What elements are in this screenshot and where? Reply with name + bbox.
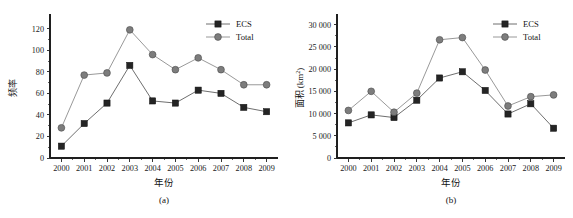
x-tick-label: 2007 [499, 164, 515, 173]
x-tick-label: 2008 [522, 164, 538, 173]
y-tick-label: 10 000 [308, 110, 331, 119]
legend-label-ecs: ECS [236, 19, 252, 29]
y-tick-label: 40 [36, 111, 44, 120]
legend-marker-total [215, 34, 222, 41]
data-point-ecs [459, 69, 465, 75]
x-tick-label: 2007 [213, 164, 229, 173]
panel-caption: (b) [445, 195, 456, 205]
data-point-total [263, 81, 270, 88]
data-point-ecs [195, 87, 201, 93]
y-tick-label: 80 [36, 68, 44, 77]
data-point-ecs [104, 100, 110, 106]
data-point-total [436, 36, 443, 43]
x-tick-label: 2006 [477, 164, 493, 173]
x-tick-label: 2009 [258, 164, 274, 173]
y-tick-label: 100 [32, 46, 44, 55]
data-point-total [104, 70, 111, 77]
x-tick-label: 2008 [236, 164, 252, 173]
x-tick-label: 2005 [167, 164, 183, 173]
data-point-ecs [345, 120, 351, 126]
data-point-ecs [264, 109, 270, 115]
data-point-total [218, 66, 225, 73]
chart-panel-b: 05 00010 00015 00020 00025 00030 0002000… [287, 0, 573, 218]
x-tick-label: 2003 [408, 164, 424, 173]
x-tick-label: 2004 [144, 164, 160, 173]
x-tick-label: 2001 [363, 164, 379, 173]
x-tick-label: 2009 [545, 164, 561, 173]
data-point-total [504, 103, 511, 110]
figure-root: 0204060801001202000200120022003200420052… [0, 0, 573, 218]
data-point-total [149, 51, 156, 58]
data-point-ecs [58, 143, 64, 149]
y-tick-label: 25 000 [308, 43, 331, 52]
y-tick-label: 20 000 [308, 65, 331, 74]
x-axis-title: 年份 [441, 177, 461, 188]
data-point-total [126, 26, 133, 33]
data-point-ecs [482, 87, 488, 93]
y-tick-label: 30 000 [308, 21, 331, 30]
data-point-total [481, 67, 488, 74]
data-point-total [81, 72, 88, 79]
data-point-ecs [436, 75, 442, 81]
data-point-ecs [241, 104, 247, 110]
data-point-total [413, 90, 420, 97]
legend-marker-ecs [501, 21, 507, 27]
data-point-ecs [150, 98, 156, 104]
legend-marker-ecs [215, 21, 221, 27]
data-point-ecs [550, 125, 556, 131]
series-line-total [61, 30, 266, 128]
x-tick-label: 2004 [431, 164, 447, 173]
chart-svg-b: 05 00010 00015 00020 00025 00030 0002000… [287, 0, 573, 218]
y-axis-title: 面积 (km2) [294, 68, 305, 109]
legend-marker-total [501, 34, 508, 41]
x-tick-label: 2000 [340, 164, 356, 173]
x-tick-label: 2005 [454, 164, 470, 173]
data-point-ecs [368, 112, 374, 118]
chart-svg-a: 0204060801001202000200120022003200420052… [0, 0, 287, 218]
data-point-total [390, 109, 397, 116]
data-point-ecs [218, 90, 224, 96]
y-tick-label: 15 000 [308, 87, 331, 96]
y-tick-label: 20 [36, 132, 44, 141]
data-point-ecs [127, 62, 133, 68]
legend-label-total: Total [523, 32, 541, 42]
data-point-ecs [527, 101, 533, 107]
y-tick-label: 60 [36, 89, 44, 98]
data-point-total [345, 107, 352, 114]
data-point-ecs [172, 100, 178, 106]
x-tick-label: 2006 [190, 164, 206, 173]
data-point-ecs [504, 111, 510, 117]
x-tick-label: 2003 [122, 164, 138, 173]
data-point-total [367, 88, 374, 95]
data-point-total [550, 91, 557, 98]
y-tick-label: 120 [32, 25, 44, 34]
data-point-total [527, 93, 534, 100]
series-line-ecs [61, 65, 266, 146]
y-axis-title: 频率 [7, 79, 18, 97]
x-axis-title: 年份 [154, 177, 174, 188]
data-point-ecs [413, 97, 419, 103]
y-tick-label: 0 [326, 154, 330, 163]
data-point-total [195, 54, 202, 61]
data-point-total [240, 81, 247, 88]
y-tick-label: 0 [40, 154, 44, 163]
chart-panel-a: 0204060801001202000200120022003200420052… [0, 0, 287, 218]
x-tick-label: 2001 [76, 164, 92, 173]
x-tick-label: 2000 [53, 164, 69, 173]
legend-label-total: Total [236, 32, 254, 42]
data-point-total [58, 124, 65, 131]
data-point-total [172, 66, 179, 73]
x-tick-label: 2002 [385, 164, 401, 173]
panel-caption: (a) [159, 195, 169, 205]
data-point-ecs [81, 120, 87, 126]
legend-label-ecs: ECS [523, 19, 539, 29]
y-tick-label: 5 000 [312, 132, 330, 141]
data-point-total [459, 34, 466, 41]
x-tick-label: 2002 [99, 164, 115, 173]
